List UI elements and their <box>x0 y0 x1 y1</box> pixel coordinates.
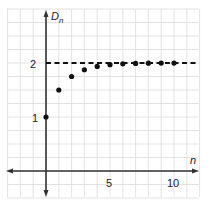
y-axis-down-arrow-icon <box>44 190 49 197</box>
data-point <box>43 114 48 119</box>
data-point <box>133 61 138 66</box>
x-axis-label: n <box>190 154 196 166</box>
data-point <box>95 64 100 69</box>
x-axis-left-arrow-icon <box>6 169 13 174</box>
data-point <box>171 60 176 65</box>
x-tick-label-5: 5 <box>106 177 112 189</box>
y-axis-label-sub: n <box>59 16 64 25</box>
y-tick-label-1: 1 <box>32 112 38 124</box>
data-point <box>56 87 61 92</box>
y-axis-label-main: D <box>51 10 59 22</box>
data-point <box>107 62 112 67</box>
y-tick-label-2: 2 <box>30 58 36 70</box>
data-point <box>120 61 125 66</box>
grid <box>7 9 200 198</box>
data-point <box>159 61 164 66</box>
data-point <box>69 74 74 79</box>
sequence-plot: 2 1 5 10 n Dn <box>0 0 213 207</box>
x-axis-right-arrow-icon <box>192 169 199 174</box>
data-point <box>82 67 87 72</box>
x-tick-label-10: 10 <box>167 177 179 189</box>
data-point <box>146 61 151 66</box>
y-axis-up-arrow-icon <box>44 10 49 17</box>
